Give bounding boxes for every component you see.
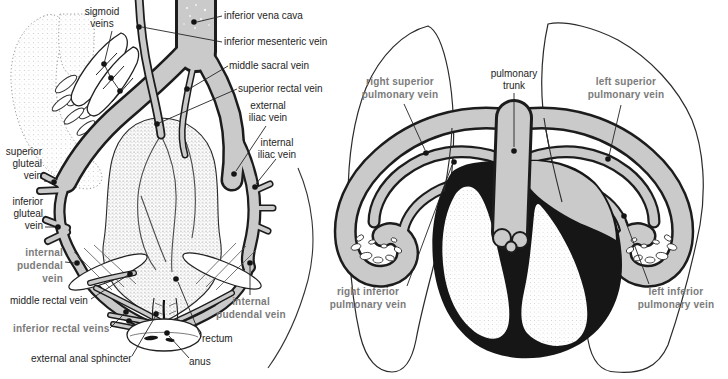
label-pulmonary-trunk: pulmonary trunk — [484, 68, 544, 92]
label-internal-pudendal-vein-left: internal pudendal vein — [0, 246, 63, 285]
label-line: internal — [0, 246, 63, 259]
label-line: pudendal — [0, 259, 63, 272]
label-left-superior-pulmonary-vein: left superior pulmonary vein — [584, 75, 668, 101]
label-line: vein — [0, 272, 63, 285]
label-line: internal — [211, 295, 291, 308]
label-line: pulmonary — [484, 68, 544, 80]
label-superior-rectal-vein: superior rectal vein — [238, 83, 322, 95]
label-line: pulmonary vein — [358, 88, 442, 101]
pulmonary-trunk-icon — [510, 118, 514, 232]
label-line: trunk — [484, 80, 544, 92]
label-middle-sacral-vein: middle sacral vein — [229, 60, 309, 72]
label-line: veins — [62, 18, 142, 30]
label-right-inferior-pulmonary-vein: right inferior pulmonary vein — [326, 285, 410, 311]
label-line: superior — [0, 146, 42, 158]
label-internal-pudendal-vein-right: internal pudendal vein — [211, 295, 291, 321]
label-internal-iliac-vein: internal iliac vein — [242, 137, 312, 161]
label-line: vein — [0, 220, 43, 232]
label-inferior-mesenteric-vein: inferior mesenteric vein — [224, 36, 327, 48]
label-rectum: rectum — [202, 333, 233, 345]
label-line: external — [233, 100, 303, 112]
label-inferior-rectal-veins: inferior rectal veins — [13, 322, 109, 335]
label-middle-rectal-vein: middle rectal vein — [10, 295, 88, 307]
label-line: pulmonary vein — [326, 298, 410, 311]
label-line: right superior — [358, 75, 442, 88]
label-line: sigmoid — [62, 6, 142, 18]
label-superior-gluteal-vein: superior gluteal vein — [0, 146, 42, 182]
label-line: left inferior — [633, 285, 719, 298]
label-line: iliac vein — [233, 112, 303, 124]
pelvis-outline-icon — [268, 168, 313, 368]
label-left-inferior-pulmonary-vein: left inferior pulmonary vein — [633, 285, 719, 311]
label-line: inferior — [0, 196, 43, 208]
label-right-superior-pulmonary-vein: right superior pulmonary vein — [358, 75, 442, 101]
label-inferior-gluteal-vein: inferior gluteal vein — [0, 196, 43, 232]
label-line: right inferior — [326, 285, 410, 298]
label-line: vein — [0, 170, 42, 182]
label-line: iliac vein — [242, 149, 312, 161]
label-line: gluteal — [0, 208, 43, 220]
label-line: pulmonary vein — [633, 298, 719, 311]
label-inferior-vena-cava: inferior vena cava — [224, 10, 303, 22]
rectum-shape-icon — [103, 118, 221, 322]
label-line: pulmonary vein — [584, 88, 668, 101]
anatomy-figure: sigmoid veins inferior vena cava inferio… — [0, 0, 728, 379]
label-line: internal — [242, 137, 312, 149]
label-line: left superior — [584, 75, 668, 88]
label-sigmoid-veins: sigmoid veins — [62, 6, 142, 30]
label-external-anal-sphincter: external anal sphincter — [31, 353, 132, 365]
label-anus: anus — [189, 356, 211, 368]
label-external-iliac-vein: external iliac vein — [233, 100, 303, 124]
label-line: pudendal vein — [211, 308, 291, 321]
label-line: gluteal — [0, 158, 42, 170]
